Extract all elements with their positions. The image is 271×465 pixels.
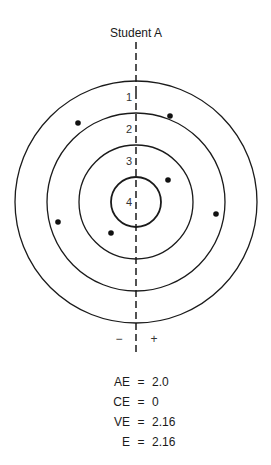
ring-label-3: 3 bbox=[126, 155, 132, 167]
stat-key: VE bbox=[100, 412, 130, 432]
stat-key: E bbox=[100, 432, 130, 452]
stat-key: AE bbox=[100, 372, 130, 392]
minus-sign: − bbox=[115, 332, 122, 346]
hit-dot bbox=[75, 120, 81, 126]
ring-label-1: 1 bbox=[126, 91, 132, 103]
diagram-title: Student A bbox=[110, 26, 162, 40]
hit-dot bbox=[213, 211, 219, 217]
hit-dot bbox=[165, 177, 171, 183]
ring-labels: 1234 bbox=[126, 91, 132, 208]
stat-eq: = bbox=[130, 372, 152, 392]
plus-sign: + bbox=[150, 332, 157, 346]
stat-value: 2.16 bbox=[152, 432, 175, 452]
hit-marks bbox=[55, 113, 219, 236]
hit-dot bbox=[55, 219, 61, 225]
stat-value: 2.16 bbox=[152, 412, 175, 432]
error-stats: AE=2.0 CE=0 VE=2.16 E=2.16 bbox=[100, 372, 175, 452]
stat-eq: = bbox=[130, 432, 152, 452]
stat-ae: AE=2.0 bbox=[100, 372, 175, 392]
stat-key: CE bbox=[100, 392, 130, 412]
stat-ce: CE=0 bbox=[100, 392, 175, 412]
stat-eq: = bbox=[130, 392, 152, 412]
ring-label-2: 2 bbox=[126, 123, 132, 135]
hit-dot bbox=[108, 230, 114, 236]
ring-label-4: 4 bbox=[126, 196, 132, 208]
stat-value: 2.0 bbox=[152, 372, 169, 392]
stat-e: E=2.16 bbox=[100, 432, 175, 452]
hit-dot bbox=[167, 113, 173, 119]
stat-eq: = bbox=[130, 412, 152, 432]
stat-value: 0 bbox=[152, 392, 159, 412]
stat-ve: VE=2.16 bbox=[100, 412, 175, 432]
